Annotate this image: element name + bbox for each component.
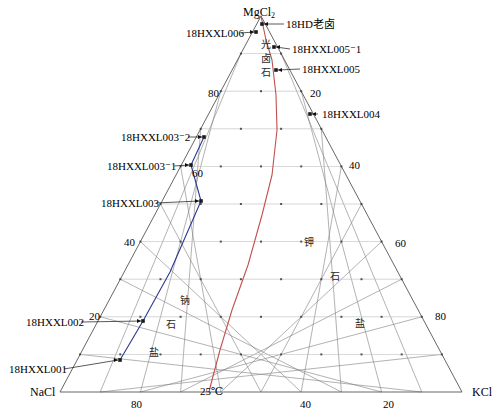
- tick-bottom-40: 40: [300, 399, 311, 410]
- corner-label-nacl: NaCl: [30, 386, 55, 398]
- temperature-label: 25℃: [200, 385, 223, 398]
- field-label-carnallite-char1: 光: [261, 40, 271, 50]
- tick-bottom-80: 80: [131, 399, 142, 410]
- tick-right-80: 80: [435, 311, 446, 322]
- tick-right-60: 60: [395, 238, 406, 249]
- sample-label-18hxxl006: 18HXXL006: [186, 28, 244, 39]
- sample-label-18hxxl003: 18HXXL003: [101, 198, 159, 209]
- corner-label-mgcl2: MgCl2: [243, 6, 275, 18]
- tick-left-20: 20: [89, 311, 100, 322]
- field-label-carnallite-char2: 卤: [261, 54, 271, 64]
- field-label-sylvite-char3: 盐: [355, 319, 365, 329]
- sample-label-18hxxl003-1: 18HXXL003⁻1: [107, 161, 176, 172]
- corner-label-kcl: KCl: [472, 386, 492, 398]
- sample-label-18hxxl001: 18HXXL001: [9, 364, 67, 375]
- tick-right-40: 40: [349, 160, 360, 171]
- tick-left-40: 40: [124, 237, 135, 248]
- sample-label-18hd-laolu: 18HD老卤: [286, 19, 335, 30]
- sample-label-18hxxl005-1: 18HXXL005⁻1: [292, 44, 361, 55]
- field-label-sylvite-char1: 钾: [304, 238, 314, 248]
- sample-label-18hxxl003-2: 18HXXL003⁻2: [121, 132, 190, 143]
- tick-left-80: 80: [208, 88, 219, 99]
- tick-left-60: 60: [192, 168, 203, 179]
- sample-label-18hxxl005: 18HXXL005: [302, 64, 360, 75]
- field-label-halite-char1: 钠: [180, 296, 190, 306]
- field-label-halite-char3: 盐: [149, 348, 159, 358]
- field-label-sylvite-char2: 石: [330, 272, 340, 282]
- ternary-diagram-stage: MgCl2 NaCl KCl 80 60 40 20 20 40 60 80 8…: [0, 0, 500, 415]
- tick-right-20: 20: [310, 88, 321, 99]
- grid-lines-right: [100, 54, 442, 392]
- sample-label-18hxxl004: 18HXXL004: [322, 109, 380, 120]
- ternary-diagram-svg: [0, 0, 500, 415]
- sample-label-18hxxl002: 18HXXL002: [26, 317, 84, 328]
- field-label-carnallite-char3: 石: [261, 68, 271, 78]
- data-points: [118, 22, 312, 362]
- tick-bottom-20: 20: [383, 399, 394, 410]
- field-label-halite-char2: 石: [166, 320, 176, 330]
